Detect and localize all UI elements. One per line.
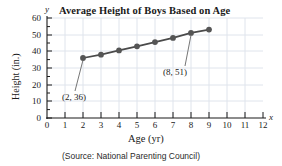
x-tick-label: 4 bbox=[112, 121, 126, 130]
y-axis-variable-label: y bbox=[45, 5, 49, 14]
x-tick-label: 7 bbox=[166, 121, 180, 130]
x-tick-label: 6 bbox=[148, 121, 162, 130]
x-tick-label: 8 bbox=[184, 121, 198, 130]
x-axis-title: Age (yr) bbox=[128, 134, 164, 145]
y-tick-label: 10 bbox=[25, 97, 41, 106]
x-tick-label: 11 bbox=[238, 121, 252, 130]
point-annotation: (8, 51) bbox=[163, 68, 187, 77]
annotation-leader-lines bbox=[75, 35, 191, 91]
x-tick-label: 5 bbox=[130, 121, 144, 130]
data-point bbox=[152, 39, 158, 45]
y-tick-label: 30 bbox=[25, 64, 41, 73]
y-axis-title: Height (in.) bbox=[11, 53, 21, 100]
point-annotation: (2, 36) bbox=[62, 93, 86, 102]
x-tick-label: 3 bbox=[94, 121, 108, 130]
y-tick-label: 60 bbox=[25, 14, 41, 23]
chart-figure: Average Height of Boys Based on Age y x … bbox=[0, 0, 282, 166]
x-tick-label: 0 bbox=[40, 121, 54, 130]
data-point bbox=[134, 43, 140, 49]
x-axis-ticks bbox=[65, 112, 263, 118]
source-note: (Source: National Parenting Council) bbox=[62, 152, 200, 161]
data-point bbox=[170, 35, 176, 41]
y-tick-label: 50 bbox=[25, 31, 41, 40]
data-series-height bbox=[80, 27, 212, 61]
x-tick-label: 10 bbox=[220, 121, 234, 130]
data-point bbox=[116, 48, 122, 54]
y-axis-ticks bbox=[47, 18, 52, 118]
gridlines bbox=[47, 18, 263, 118]
data-point bbox=[206, 27, 212, 33]
y-tick-label: 0 bbox=[25, 114, 41, 123]
chart-title: Average Height of Boys Based on Age bbox=[59, 6, 230, 17]
y-tick-label: 40 bbox=[25, 47, 41, 56]
x-tick-label: 12 bbox=[256, 121, 270, 130]
y-tick-label: 20 bbox=[25, 81, 41, 90]
data-point bbox=[98, 52, 104, 58]
x-tick-label: 9 bbox=[202, 121, 216, 130]
x-tick-label: 1 bbox=[58, 121, 72, 130]
data-point bbox=[188, 30, 194, 36]
x-tick-label: 2 bbox=[76, 121, 90, 130]
